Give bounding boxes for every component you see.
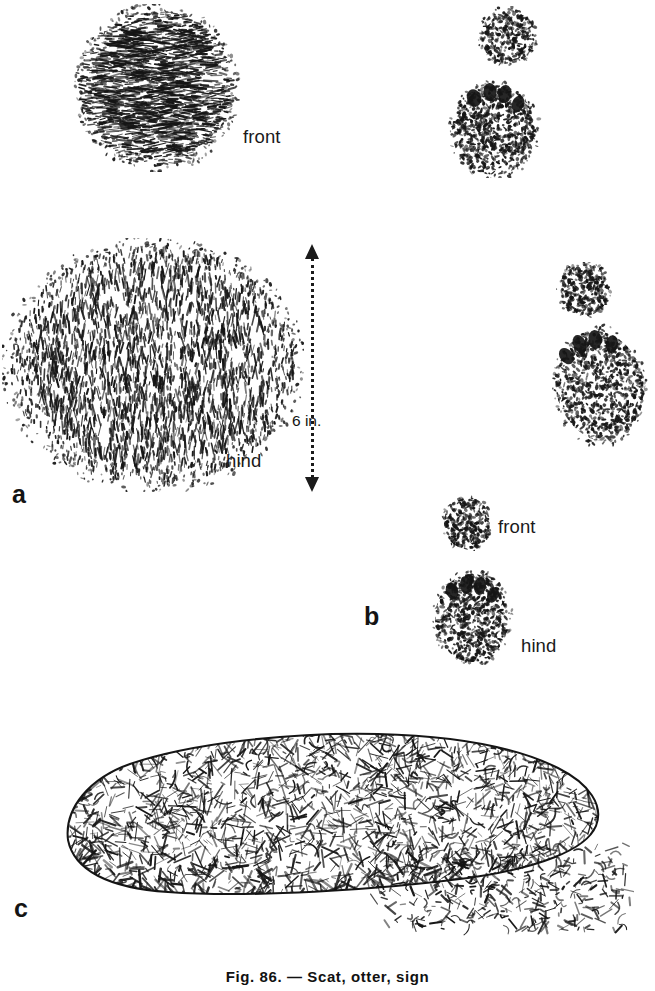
bear-front-track-small-2 [556,262,612,318]
panel-label-c: c [14,896,28,921]
figure-plate: front hind 6 in. a [0,0,655,991]
scale-shaft [311,258,314,478]
raccoon-front-track-label: front [498,518,536,537]
raccoon-hind-track-label: hind [521,637,556,656]
bear-front-track-label: front [243,128,281,147]
scat-drawing [38,722,634,936]
raccoon-hind-track [430,565,514,665]
bear-hind-track-small [447,74,542,178]
scale-bar [300,244,324,492]
bear-hind-track-small-2 [548,318,652,448]
scale-label: 6 in. [292,412,321,429]
bear-hind-track-label: hind [226,452,261,471]
panel-label-a: a [12,482,26,507]
bear-front-track-large [72,4,242,172]
bear-front-track-small [478,6,538,66]
raccoon-front-track [441,495,493,551]
scale-arrow-up-icon [305,244,319,259]
panel-label-b: b [364,604,379,629]
scale-arrow-down-icon [305,477,319,492]
figure-caption: Fig. 86. — Scat, otter, sign [0,968,655,985]
